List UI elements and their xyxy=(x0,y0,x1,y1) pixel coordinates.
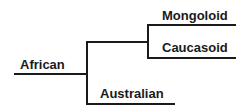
phylogenetic-tree: African Mongoloid Caucasoid Australian xyxy=(0,0,249,109)
label-african: African xyxy=(20,57,65,72)
label-mongoloid: Mongoloid xyxy=(162,8,228,23)
label-caucasoid: Caucasoid xyxy=(162,40,228,55)
label-australian: Australian xyxy=(100,86,164,101)
